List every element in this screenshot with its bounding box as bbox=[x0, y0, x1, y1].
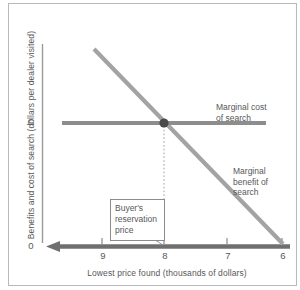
marginal-benefit-curve-label: Marginal benefit of search bbox=[233, 166, 268, 198]
economics-figure: Benefits and cost of search (dollars per… bbox=[0, 0, 300, 290]
x-tick-label-8: 8 bbox=[156, 250, 174, 261]
x-tick-label-9: 9 bbox=[94, 250, 112, 261]
equilibrium-point-marker bbox=[159, 118, 168, 127]
buyers-reservation-price-callout: Buyer's reservation price bbox=[110, 199, 165, 241]
x-tick-label-6: 6 bbox=[274, 250, 292, 261]
x-tick-label-7: 7 bbox=[219, 250, 237, 261]
y-axis-label-cost-level: C bbox=[24, 116, 38, 127]
chart-canvas bbox=[0, 0, 300, 290]
y-axis-title: Benefits and cost of search (dollars per… bbox=[26, 25, 36, 245]
marginal-cost-curve-label: Marginal cost of search bbox=[216, 102, 267, 123]
y-axis-label-origin: 0 bbox=[24, 240, 38, 251]
x-axis-title: Lowest price found (thousands of dollars… bbox=[42, 268, 292, 278]
x-axis-arrowhead-icon bbox=[46, 241, 60, 252]
